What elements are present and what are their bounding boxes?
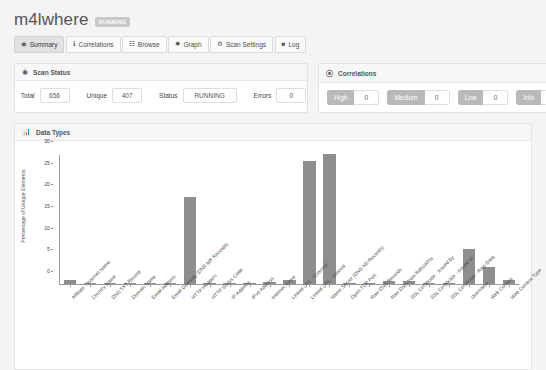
status-field-status: Status RUNNING <box>154 88 236 103</box>
y-axis-tick: 20 <box>44 181 50 187</box>
info-circle-icon: ℹ <box>73 41 75 48</box>
chip-label: Low <box>458 90 484 105</box>
eye-icon: ◉ <box>21 41 27 48</box>
correlation-chip-high[interactable]: High 0 <box>327 90 379 105</box>
tab-scan-settings[interactable]: ⚙ Scan Settings <box>210 36 273 53</box>
panel-title: Correlations <box>338 70 376 77</box>
field-value: 0 <box>276 88 306 103</box>
bar-slot[interactable] <box>399 155 419 284</box>
data-types-chart: Percentage of Unique Elements 0510152025… <box>15 141 531 369</box>
bar-slot[interactable] <box>60 155 80 284</box>
field-label: Total <box>16 88 40 103</box>
bar-slot[interactable] <box>279 155 299 284</box>
tab-label: Summary <box>30 41 58 48</box>
y-axis-tick: 10 <box>44 225 50 231</box>
chip-count: 0 <box>541 90 546 105</box>
info-circle-icon: ⦿ <box>326 68 333 78</box>
field-value: 407 <box>112 88 142 103</box>
scan-dashboard-page: m4lwhere RUNNING ◉ Summary ℹ Correlation… <box>0 0 546 370</box>
scan-status-header: ◉ Scan Status <box>15 64 307 81</box>
correlations-body: High 0 Medium 0 Low 0 Info 0 <box>319 83 546 112</box>
y-axis-tick: 30 <box>44 138 50 144</box>
share-nodes-icon: ✸ <box>175 41 180 48</box>
bar-slot[interactable] <box>80 155 100 284</box>
tick-dash <box>51 271 53 272</box>
bar-series <box>60 155 519 284</box>
plot-area <box>59 155 519 285</box>
chip-label: High <box>327 90 354 105</box>
tab-summary[interactable]: ◉ Summary <box>14 36 64 53</box>
correlation-chip-low[interactable]: Low 0 <box>458 90 509 105</box>
bar-slot[interactable] <box>220 155 240 284</box>
correlations-header: ⦿ Correlations <box>319 64 546 83</box>
y-axis-tick: 15 <box>44 203 50 209</box>
summary-panels: ◉ Scan Status Total 656 Unique 407 Statu… <box>0 53 546 113</box>
tick-dash <box>51 163 53 164</box>
tab-label: Scan Settings <box>226 41 266 48</box>
tick-dash <box>51 206 53 207</box>
title-row: m4lwhere RUNNING <box>14 10 532 30</box>
tab-bar: ◉ Summary ℹ Correlations ☷ Browse ✸ Grap… <box>14 36 532 53</box>
tab-label: Correlations <box>78 41 113 48</box>
bar-slot[interactable] <box>180 155 200 284</box>
panel-title: Data Types <box>36 129 70 136</box>
field-value: 656 <box>40 88 70 103</box>
bar-chart-icon: 📊 <box>22 128 31 136</box>
tab-browse[interactable]: ☷ Browse <box>122 36 167 53</box>
bar-slot[interactable] <box>499 155 519 284</box>
y-axis-tick: 25 <box>44 160 50 166</box>
status-badge: RUNNING <box>95 17 131 27</box>
tick-dash <box>51 228 53 229</box>
tick-dash <box>51 249 53 250</box>
bar-slot[interactable] <box>120 155 140 284</box>
bar-slot[interactable] <box>260 155 280 284</box>
y-axis-label: Percentage of Unique Elements <box>17 141 29 271</box>
chip-label: Info <box>516 90 541 105</box>
chip-count: 0 <box>354 90 379 105</box>
target-icon: ◉ <box>22 68 28 76</box>
gear-icon: ⚙ <box>217 41 223 48</box>
scan-status-panel: ◉ Scan Status Total 656 Unique 407 Statu… <box>14 63 308 113</box>
data-types-header: 📊 Data Types <box>15 124 531 141</box>
field-label: Errors <box>249 88 277 103</box>
status-field-unique: Unique 407 <box>82 88 143 103</box>
tab-label: Graph <box>183 41 201 48</box>
tab-correlations[interactable]: ℹ Correlations <box>66 36 121 53</box>
status-field-errors: Errors 0 <box>249 88 307 103</box>
bar[interactable] <box>303 161 315 285</box>
tab-log[interactable]: ■ Log <box>275 36 307 53</box>
bar-slot[interactable] <box>160 155 180 284</box>
correlations-panel: ⦿ Correlations High 0 Medium 0 Low 0 <box>318 63 546 113</box>
status-field-total: Total 656 <box>16 88 70 103</box>
bar-slot[interactable] <box>240 155 260 284</box>
tab-label: Log <box>288 41 299 48</box>
correlation-chips: High 0 Medium 0 Low 0 Info 0 <box>327 90 546 105</box>
tick-dash <box>51 141 53 142</box>
y-axis-tick: 0 <box>47 268 50 274</box>
field-label: Status <box>154 88 182 103</box>
bar-slot[interactable] <box>379 155 399 284</box>
bar-slot[interactable] <box>140 155 160 284</box>
book-icon: ■ <box>282 41 286 48</box>
y-axis-tick: 5 <box>47 246 50 252</box>
tab-graph[interactable]: ✸ Graph <box>168 36 209 53</box>
scan-status-fields: Total 656 Unique 407 Status RUNNING Erro… <box>23 88 299 103</box>
tick-dash <box>51 184 53 185</box>
correlation-chip-medium[interactable]: Medium 0 <box>387 90 449 105</box>
app-header: m4lwhere RUNNING ◉ Summary ℹ Correlation… <box>0 0 546 53</box>
field-label: Unique <box>82 88 113 103</box>
x-axis-labels: Affiliate - Internet NameCountry NameDNS… <box>60 285 519 355</box>
panel-title: Scan Status <box>33 69 70 76</box>
chip-label: Medium <box>387 90 424 105</box>
bar-slot[interactable] <box>299 155 319 284</box>
tab-label: Browse <box>138 41 160 48</box>
chip-count: 0 <box>483 90 508 105</box>
scan-status-body: Total 656 Unique 407 Status RUNNING Erro… <box>15 81 307 110</box>
correlation-chip-info[interactable]: Info 0 <box>516 90 546 105</box>
chip-count: 0 <box>425 90 450 105</box>
list-icon: ☷ <box>129 41 135 48</box>
page-title: m4lwhere <box>14 10 89 30</box>
data-types-panel: 📊 Data Types Percentage of Unique Elemen… <box>14 123 532 370</box>
y-axis-ticks: 051015202530 <box>29 141 53 271</box>
field-value: RUNNING <box>183 88 237 103</box>
